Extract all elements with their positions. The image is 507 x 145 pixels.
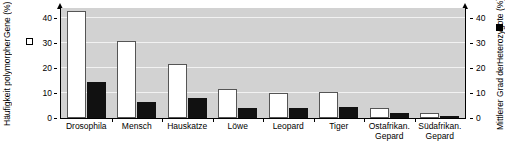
x-axis-tick-mark xyxy=(263,119,264,122)
category-label: Drosophila xyxy=(61,121,112,131)
legend-swatch-heterozygosity xyxy=(496,24,503,31)
right-axis-spine xyxy=(465,8,466,119)
category-label-line: Tiger xyxy=(314,121,365,131)
category-label: Hauskatze xyxy=(162,121,213,131)
bars-layer xyxy=(61,8,465,118)
axis-tick-mark xyxy=(54,93,57,94)
bar-polymorphic-genes xyxy=(370,108,389,118)
axis-tick-label: 10 xyxy=(476,89,485,97)
axis-tick-label: 10 xyxy=(43,89,52,97)
category-label-line: Löwe xyxy=(213,121,264,131)
bar-group xyxy=(370,8,409,118)
category-label-line: Mensch xyxy=(112,121,163,131)
axis-tick-mark xyxy=(470,93,473,94)
bar-polymorphic-genes xyxy=(420,113,439,118)
bar-polymorphic-genes xyxy=(269,93,288,118)
left-axis-title: Häufigkeit polymorpher Gene (%) xyxy=(2,8,12,120)
x-axis-tick-mark xyxy=(364,119,365,122)
axis-tick-label: 0 xyxy=(476,114,481,122)
category-label-line: Drosophila xyxy=(61,121,112,131)
bar-polymorphic-genes xyxy=(168,64,187,118)
category-label-line: Gepard xyxy=(364,131,415,141)
x-axis-tick-mark xyxy=(112,119,113,122)
axis-tick-mark xyxy=(54,68,57,69)
bar-group xyxy=(218,8,257,118)
axis-tick-mark xyxy=(54,118,57,119)
category-label: Ostafrikan.Gepard xyxy=(364,121,415,141)
axis-tick-mark xyxy=(470,118,473,119)
axis-tick-label: 20 xyxy=(476,64,485,72)
bar-heterozygosity xyxy=(238,108,257,118)
bar-heterozygosity xyxy=(87,82,106,118)
category-label: Tiger xyxy=(314,121,365,131)
bar-heterozygosity xyxy=(440,116,459,118)
axis-tick-label: 0 xyxy=(47,114,52,122)
x-axis-tick-mark xyxy=(415,119,416,122)
right-axis-ticks: 010203040 xyxy=(470,0,492,145)
axis-tick-label: 40 xyxy=(43,14,52,22)
category-label-line: Leopard xyxy=(263,121,314,131)
category-label-line: Südafrikan. xyxy=(415,121,466,131)
left-axis-ticks: 010203040 xyxy=(35,0,57,145)
bar-heterozygosity xyxy=(390,113,409,118)
axis-tick-label: 30 xyxy=(43,39,52,47)
right-axis-title-line2: Heterozygote (%) xyxy=(495,0,505,64)
axis-tick-mark xyxy=(470,18,473,19)
x-axis-tick-mark xyxy=(314,119,315,122)
bar-polymorphic-genes xyxy=(67,11,86,119)
category-label: Südafrikan.Gepard xyxy=(415,121,466,141)
axis-tick-label: 40 xyxy=(476,14,485,22)
category-label-line: Ostafrikan. xyxy=(364,121,415,131)
axis-tick-mark xyxy=(470,43,473,44)
bar-group xyxy=(319,8,358,118)
category-label: Leopard xyxy=(263,121,314,131)
plot-area xyxy=(61,8,465,118)
x-axis-tick-mark xyxy=(162,119,163,122)
left-axis-title-line1: Häufigkeit polymorpher xyxy=(2,38,12,125)
bar-polymorphic-genes xyxy=(319,92,338,118)
bar-chart: Häufigkeit polymorpher Gene (%) Mittlere… xyxy=(0,0,507,145)
legend-swatch-polymorphic-genes xyxy=(26,38,33,45)
left-axis-title-line2: Gene (%) xyxy=(2,2,12,38)
bar-heterozygosity xyxy=(339,107,358,118)
bar-group xyxy=(67,8,106,118)
axis-tick-label: 20 xyxy=(43,64,52,72)
axis-tick-mark xyxy=(470,68,473,69)
bar-group xyxy=(168,8,207,118)
axis-tick-mark xyxy=(54,18,57,19)
category-label: Löwe xyxy=(213,121,264,131)
bar-group xyxy=(420,8,459,118)
bar-group xyxy=(269,8,308,118)
right-axis-title-line1: Mittlerer Grad der xyxy=(495,64,505,131)
bar-polymorphic-genes xyxy=(117,41,136,119)
x-axis-tick-mark xyxy=(213,119,214,122)
bar-group xyxy=(117,8,156,118)
category-label-line: Gepard xyxy=(415,131,466,141)
bar-polymorphic-genes xyxy=(218,89,237,118)
x-axis-category-labels: DrosophilaMenschHauskatzeLöweLeopardTige… xyxy=(61,121,465,145)
bar-heterozygosity xyxy=(289,108,308,118)
axis-tick-label: 30 xyxy=(476,39,485,47)
bar-heterozygosity xyxy=(188,98,207,118)
category-label: Mensch xyxy=(112,121,163,131)
category-label-line: Hauskatze xyxy=(162,121,213,131)
bar-heterozygosity xyxy=(137,102,156,118)
axis-tick-mark xyxy=(54,43,57,44)
